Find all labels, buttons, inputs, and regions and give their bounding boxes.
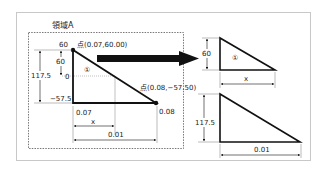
small-width-label: x: [244, 75, 248, 83]
zero-label: 0: [65, 73, 69, 81]
transform-arrow: [97, 51, 199, 66]
region-label-1: ①: [84, 66, 90, 74]
total-height-label: 117.5: [31, 72, 51, 80]
x-partial-label: x: [91, 118, 95, 126]
large-width-label: 0.01: [254, 146, 270, 154]
point-bottom-marker: [154, 101, 158, 105]
top-value-label: 60: [59, 41, 68, 49]
large-height-label: 117.5: [195, 119, 215, 127]
small-region-label: ①: [232, 54, 238, 62]
bottom-value-label: −57.5: [50, 95, 71, 103]
small-height-label: 60: [202, 50, 211, 58]
large-triangle: [220, 94, 300, 142]
upper-height-label: 60: [56, 58, 65, 66]
small-triangle-group: ① 60 x: [201, 38, 275, 88]
arrow-head-icon: [179, 51, 199, 66]
point-top-label: 点(0.07,60.00): [77, 41, 128, 49]
region-title: 領域A: [52, 20, 74, 30]
point-bottom-label: 点(0.08,−57.50): [140, 84, 196, 92]
x-width-label: 0.01: [108, 131, 124, 139]
x-end-label: 0.08: [159, 108, 175, 116]
small-triangle: [220, 38, 275, 70]
x-start-label: 0.07: [76, 109, 92, 117]
arrow-shaft: [97, 55, 181, 62]
large-triangle-group: 117.5 0.01: [194, 94, 301, 158]
similar-triangles-diagram: 領域A ① 点(0.07,60.00) 点(0.08,−57.50) 60 11…: [0, 0, 324, 183]
